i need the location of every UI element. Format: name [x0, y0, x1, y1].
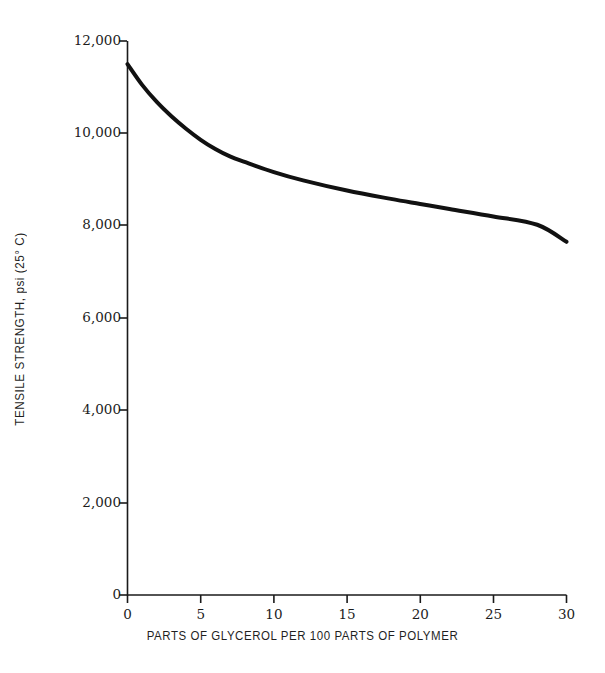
y-axis-title: TENSILE STRENGTH, psi (25° C) — [13, 232, 27, 425]
chart-figure: 12,000 10,000 8,000 6,000 4,000 2,000 0 … — [0, 0, 605, 673]
y-tick-label-8000: 8,000 — [59, 218, 121, 232]
y-tick-label-4000: 4,000 — [59, 403, 121, 417]
y-tick-label-12000: 12,000 — [59, 34, 121, 48]
x-tick-label-30: 30 — [558, 608, 575, 622]
data-line-series — [128, 64, 567, 242]
x-tick-label-15: 15 — [339, 608, 356, 622]
x-tick-label-20: 20 — [412, 608, 429, 622]
x-axis-title: PARTS OF GLYCEROL PER 100 PARTS OF POLYM… — [24, 629, 581, 643]
y-axis-tick-labels: 12,000 10,000 8,000 6,000 4,000 2,000 0 — [55, 0, 121, 673]
x-tick-label-10: 10 — [265, 608, 282, 622]
x-axis-ticks — [128, 595, 567, 603]
x-tick-label-25: 25 — [485, 608, 502, 622]
y-tick-label-10000: 10,000 — [59, 126, 121, 140]
y-tick-label-2000: 2,000 — [59, 496, 121, 510]
x-tick-label-5: 5 — [196, 608, 205, 622]
x-axis-tick-labels: 0 5 10 15 20 25 30 — [0, 604, 605, 630]
y-tick-label-0: 0 — [59, 588, 121, 602]
y-axis-title-container: TENSILE STRENGTH, psi (25° C) — [0, 0, 40, 673]
x-tick-label-0: 0 — [123, 608, 132, 622]
y-tick-label-6000: 6,000 — [59, 311, 121, 325]
